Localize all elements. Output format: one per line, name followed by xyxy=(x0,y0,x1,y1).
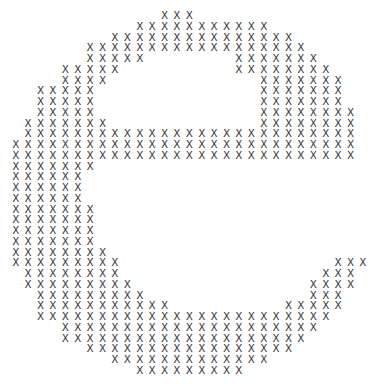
x-glyph: X xyxy=(196,42,208,53)
x-glyph: X xyxy=(258,354,270,365)
x-glyph: X xyxy=(332,149,344,160)
x-glyph: X xyxy=(134,53,146,64)
x-glyph: X xyxy=(221,42,233,53)
x-glyph: X xyxy=(270,343,282,354)
x-glyph: X xyxy=(307,321,319,332)
x-glyph: X xyxy=(59,332,71,343)
x-glyph: X xyxy=(84,160,96,171)
x-glyph: X xyxy=(332,300,344,311)
x-glyph: X xyxy=(196,149,208,160)
x-glyph: X xyxy=(47,311,59,322)
x-glyph: X xyxy=(245,354,257,365)
x-glyph: X xyxy=(97,74,109,85)
x-glyph: X xyxy=(320,311,332,322)
x-glyph: X xyxy=(22,278,34,289)
x-glyph: X xyxy=(221,364,233,375)
x-glyph: X xyxy=(307,149,319,160)
x-glyph: X xyxy=(196,364,208,375)
x-glyph: X xyxy=(270,149,282,160)
x-glyph: X xyxy=(109,354,121,365)
x-glyph: X xyxy=(121,53,133,64)
x-glyph: X xyxy=(183,149,195,160)
x-glyph: X xyxy=(208,42,220,53)
x-glyph: X xyxy=(134,149,146,160)
x-glyph: X xyxy=(283,343,295,354)
x-glyph: X xyxy=(345,149,357,160)
x-glyph: X xyxy=(121,149,133,160)
x-glyph: X xyxy=(171,364,183,375)
x-glyph: X xyxy=(357,257,369,268)
x-glyph: X xyxy=(171,42,183,53)
x-glyph: X xyxy=(146,42,158,53)
x-glyph: X xyxy=(245,63,257,74)
x-glyph: X xyxy=(35,311,47,322)
x-glyph: X xyxy=(109,149,121,160)
x-glyph: X xyxy=(258,149,270,160)
x-pattern-letter-e: XXXXXXXXXXXXXXXXXXXXXXXXXXXXXXXXXXXXXXXX… xyxy=(0,0,378,391)
x-glyph: X xyxy=(295,149,307,160)
x-glyph: X xyxy=(10,257,22,268)
x-glyph: X xyxy=(233,63,245,74)
x-glyph: X xyxy=(245,149,257,160)
x-glyph: X xyxy=(159,42,171,53)
x-glyph: X xyxy=(97,343,109,354)
x-glyph: X xyxy=(146,364,158,375)
x-glyph: X xyxy=(134,364,146,375)
x-glyph: X xyxy=(84,343,96,354)
x-glyph: X xyxy=(159,364,171,375)
x-glyph: X xyxy=(233,149,245,160)
x-glyph: X xyxy=(183,42,195,53)
x-glyph: X xyxy=(72,332,84,343)
x-glyph: X xyxy=(97,149,109,160)
x-glyph: X xyxy=(121,354,133,365)
x-glyph: X xyxy=(208,364,220,375)
x-glyph: X xyxy=(233,364,245,375)
x-glyph: X xyxy=(345,278,357,289)
x-glyph: X xyxy=(283,149,295,160)
x-glyph: X xyxy=(109,63,121,74)
x-glyph: X xyxy=(183,364,195,375)
x-glyph: X xyxy=(320,149,332,160)
x-glyph: X xyxy=(295,332,307,343)
x-glyph: X xyxy=(146,149,158,160)
x-glyph: X xyxy=(221,149,233,160)
x-glyph: X xyxy=(208,149,220,160)
x-glyph: X xyxy=(159,149,171,160)
x-glyph: X xyxy=(171,149,183,160)
